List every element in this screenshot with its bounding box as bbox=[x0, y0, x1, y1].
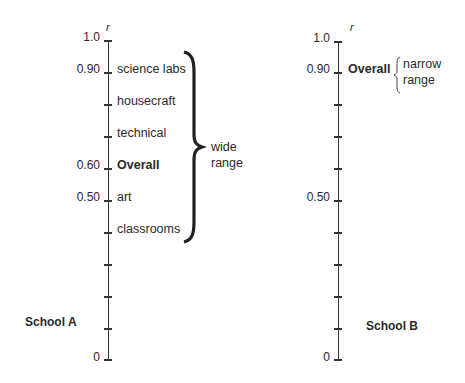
tick-label: 0.60 bbox=[60, 158, 100, 172]
item-science-labs: science labs bbox=[117, 62, 186, 76]
annotation-wide: wide bbox=[211, 140, 237, 154]
tick bbox=[334, 328, 342, 330]
tick bbox=[334, 136, 342, 138]
annotation-narrow: narrow bbox=[403, 57, 441, 71]
tick bbox=[334, 104, 342, 106]
tick bbox=[104, 104, 112, 106]
tick-label: 0 bbox=[290, 350, 330, 364]
tick-label: 0 bbox=[60, 350, 100, 364]
school-a-label: School A bbox=[25, 315, 77, 329]
tick bbox=[334, 72, 342, 74]
tick-label: 1.0 bbox=[290, 31, 330, 45]
curly-brace-narrow-icon bbox=[393, 55, 403, 95]
tick bbox=[334, 232, 342, 234]
tick-label: 0.90 bbox=[60, 62, 100, 76]
tick-label: 0.50 bbox=[290, 190, 330, 204]
tick bbox=[104, 72, 112, 74]
tick bbox=[334, 168, 342, 170]
item-overall-b: Overall bbox=[348, 62, 390, 76]
school-b-label: School B bbox=[366, 319, 418, 333]
tick bbox=[334, 359, 342, 361]
tick bbox=[104, 200, 112, 202]
item-technical: technical bbox=[117, 126, 166, 140]
axis-r-label-a: r bbox=[106, 21, 110, 33]
annotation-range-a: range bbox=[211, 156, 243, 170]
tick bbox=[104, 328, 112, 330]
curly-brace-wide-icon bbox=[180, 50, 210, 250]
tick bbox=[104, 296, 112, 298]
tick bbox=[334, 264, 342, 266]
item-art: art bbox=[117, 190, 132, 204]
tick bbox=[334, 41, 342, 43]
item-classrooms: classrooms bbox=[117, 222, 180, 236]
tick bbox=[104, 359, 112, 361]
tick bbox=[104, 232, 112, 234]
tick bbox=[334, 296, 342, 298]
tick bbox=[104, 136, 112, 138]
tick-label: 1.0 bbox=[60, 30, 100, 44]
axis-r-label-b: r bbox=[350, 21, 354, 33]
tick bbox=[104, 264, 112, 266]
item-overall-a: Overall bbox=[117, 158, 159, 172]
annotation-range-b: range bbox=[403, 73, 435, 87]
tick bbox=[104, 40, 112, 42]
tick bbox=[334, 200, 342, 202]
tick-label: 0.90 bbox=[290, 62, 330, 76]
tick-label: 0.50 bbox=[60, 190, 100, 204]
item-housecraft: housecraft bbox=[117, 94, 175, 108]
tick bbox=[104, 168, 112, 170]
